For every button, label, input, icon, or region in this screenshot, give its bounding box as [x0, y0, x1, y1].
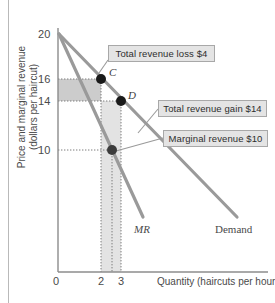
x-tick-label-2: 2 — [98, 275, 104, 287]
callout-total-revenue-loss: Total revenue loss $4 — [108, 45, 215, 62]
y-axis-title: Price and marginal revenue (dollars per … — [16, 27, 40, 187]
marker-point-c — [96, 74, 106, 84]
x-tick-label-0: 0 — [53, 275, 59, 287]
chart-figure: 20 16 14 10 0 2 3 C D MR Demand Total re… — [0, 0, 275, 303]
point-label-d: D — [128, 89, 136, 101]
leader-line-marginal-revenue — [116, 138, 163, 151]
shaded-region-total-revenue-gain — [101, 101, 121, 272]
marker-point-d — [116, 96, 126, 106]
x-tick-label-3: 3 — [118, 275, 124, 287]
callout-marginal-revenue: Marginal revenue $10 — [163, 130, 268, 147]
y-axis-title-line2: (dollars per haircut) — [28, 64, 39, 150]
curve-label-demand: Demand — [215, 223, 252, 235]
marker-point-mr — [107, 145, 117, 155]
curve-label-mr: MR — [134, 223, 150, 235]
point-label-c: C — [109, 66, 116, 78]
leader-line-revenue-loss — [99, 60, 108, 73]
leader-line-revenue-gain — [138, 109, 158, 133]
x-axis-title: Quantity (haircuts per hour) — [157, 276, 275, 287]
y-axis-title-line1: Price and marginal revenue — [16, 46, 27, 168]
callout-total-revenue-gain: Total revenue gain $14 — [158, 100, 267, 117]
